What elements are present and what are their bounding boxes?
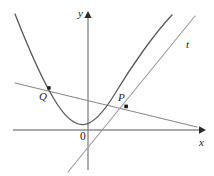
point-p-marker [124, 105, 128, 109]
x-axis-arrowhead [199, 126, 206, 134]
origin-label: 0 [80, 131, 86, 143]
point-p-label: P [118, 92, 125, 103]
y-axis-label: y [78, 8, 83, 19]
point-q-marker [47, 86, 50, 89]
parabola-curve [15, 14, 172, 125]
math-figure-canvas: y x t P Q 0 [0, 0, 214, 176]
x-axis-label: x [199, 137, 204, 148]
y-axis-arrowhead [84, 11, 91, 18]
figure-graphics [0, 0, 214, 176]
point-q-label: Q [39, 91, 47, 102]
tangent-line-t [68, 16, 195, 172]
tangent-line-label: t [186, 39, 189, 50]
